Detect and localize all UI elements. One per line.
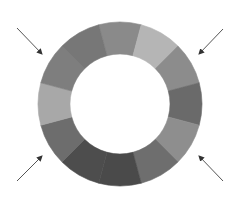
ring-diagram — [0, 0, 240, 197]
arrow-bottom-right-icon — [199, 156, 223, 181]
arrow-top-right-icon — [199, 29, 223, 54]
segmented-ring — [38, 22, 202, 186]
arrow-top-left-icon — [17, 28, 42, 54]
arrow-bottom-left-icon — [17, 156, 42, 181]
